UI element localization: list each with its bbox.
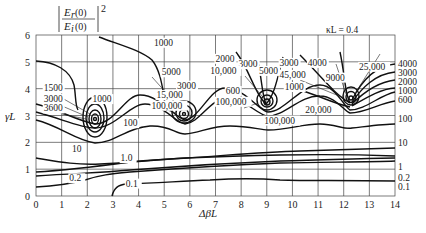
level-label: 600 bbox=[398, 95, 413, 105]
contour-label: 3600 bbox=[44, 103, 63, 113]
x-tick: 13 bbox=[364, 199, 374, 210]
contour-label: 1500 bbox=[44, 83, 63, 93]
contour-label: 3000 bbox=[239, 59, 258, 69]
x-tick: 4 bbox=[136, 199, 141, 210]
x-tick: 9 bbox=[264, 199, 269, 210]
svg-text:(0): (0) bbox=[75, 21, 87, 33]
x-tick: 0 bbox=[34, 199, 39, 210]
y-tick-labels: 0123456 bbox=[25, 30, 30, 202]
y-tick: 2 bbox=[25, 137, 30, 148]
contour-label: 20,000 bbox=[305, 105, 331, 115]
svg-text:E: E bbox=[63, 6, 71, 18]
x-axis-title: ΔβL bbox=[198, 207, 217, 219]
level-label: 0.1 bbox=[398, 182, 410, 192]
x-tick: 12 bbox=[339, 199, 349, 210]
contour-label: 10 bbox=[72, 144, 82, 154]
contour-label: 4000 bbox=[308, 58, 327, 68]
x-tick: 6 bbox=[187, 199, 192, 210]
level-label: 10 bbox=[398, 138, 408, 148]
y-tick: 0 bbox=[25, 191, 30, 202]
contour-label: 1000 bbox=[92, 94, 111, 104]
contour-label: 45,000 bbox=[280, 70, 306, 80]
contour-label: 1000 bbox=[154, 38, 173, 48]
contour-chart: 01234567891011121314 0123456 10001500300… bbox=[0, 0, 426, 233]
y-axis-title: γL bbox=[5, 110, 15, 122]
formula-label: E r (0) E i (0) 2 bbox=[59, 3, 106, 34]
contour-label: 2000 bbox=[216, 54, 235, 64]
contour-label: 25,000 bbox=[359, 62, 385, 72]
y-tick: 5 bbox=[25, 57, 30, 68]
contour-label: 9000 bbox=[326, 73, 345, 83]
x-tick: 8 bbox=[239, 199, 244, 210]
contour-label: 3000 bbox=[280, 58, 299, 68]
kappa-annotation: κL = 0.4 bbox=[326, 25, 358, 35]
x-tick: 1 bbox=[59, 199, 64, 210]
contour-label: 100,000 bbox=[216, 97, 247, 107]
contour-label: 15,000 bbox=[157, 90, 183, 100]
contour-label: 100,000 bbox=[151, 101, 182, 111]
y-tick: 3 bbox=[25, 111, 30, 122]
contour-label: 0.1 bbox=[126, 179, 138, 189]
contour-label: 0.2 bbox=[69, 173, 81, 183]
contour-label: 10,000 bbox=[210, 66, 236, 76]
x-tick: 2 bbox=[85, 199, 90, 210]
contour-label: 1.0 bbox=[121, 153, 133, 163]
x-tick: 11 bbox=[313, 199, 323, 210]
y-tick: 6 bbox=[25, 30, 30, 41]
contour-label: 100 bbox=[123, 118, 138, 128]
svg-text:i: i bbox=[71, 23, 74, 34]
svg-text:E: E bbox=[63, 20, 71, 32]
svg-text:2: 2 bbox=[101, 3, 106, 14]
x-tick: 14 bbox=[390, 199, 400, 210]
svg-text:(0): (0) bbox=[75, 7, 87, 19]
level-label: 100 bbox=[398, 114, 413, 124]
contour-label: 3000 bbox=[177, 81, 196, 91]
contour-label: 100,000 bbox=[264, 116, 295, 126]
x-tick: 3 bbox=[110, 199, 115, 210]
y-tick: 4 bbox=[25, 84, 30, 95]
contour-label: 5000 bbox=[162, 67, 181, 77]
x-tick: 5 bbox=[162, 199, 167, 210]
level-label: 1 bbox=[398, 162, 403, 172]
contour-label: 600 bbox=[226, 86, 241, 96]
y-tick: 1 bbox=[25, 164, 30, 175]
x-tick: 10 bbox=[287, 199, 297, 210]
contour-label: 1000 bbox=[285, 82, 304, 92]
contour-label: 5000 bbox=[259, 66, 278, 76]
right-edge-level-labels: 40003000200010006001001010.20.1 bbox=[398, 59, 417, 192]
